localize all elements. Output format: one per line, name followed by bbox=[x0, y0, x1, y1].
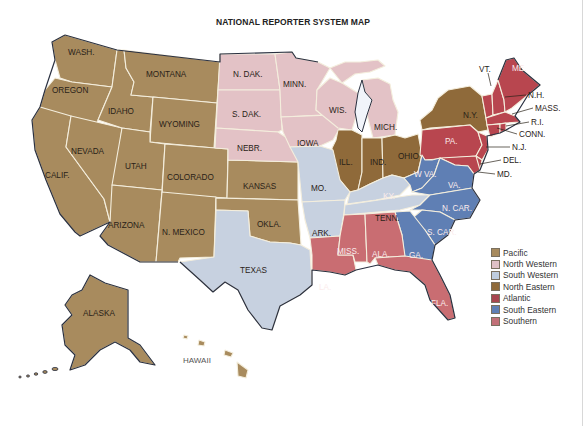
label-ohio: OHIO bbox=[398, 152, 419, 161]
label-va: VA. bbox=[448, 181, 461, 190]
label-vt: VT. bbox=[479, 65, 491, 74]
label-ri: R.I. bbox=[531, 118, 544, 127]
label-hawaii: HAWAII bbox=[183, 356, 211, 365]
aleutian-islands bbox=[19, 367, 58, 378]
label-ill: ILL. bbox=[339, 158, 353, 167]
label-utah: UTAH bbox=[125, 162, 147, 171]
legend-swatch-icon bbox=[491, 294, 500, 303]
legend-item-south-eastern: South Eastern bbox=[491, 304, 558, 315]
label-me: ME. bbox=[512, 64, 527, 73]
label-arizona: ARIZONA bbox=[108, 221, 145, 230]
label-la: LA. bbox=[319, 283, 331, 292]
label-texas: TEXAS bbox=[240, 266, 267, 275]
label-s-dak: S. DAK. bbox=[232, 110, 261, 119]
label-montana: MONTANA bbox=[146, 70, 187, 79]
label-tenn: TENN. bbox=[375, 214, 400, 223]
legend-item-pacific: Pacific bbox=[491, 247, 558, 258]
label-minn: MINN. bbox=[283, 80, 306, 89]
label-md: MD. bbox=[497, 170, 512, 179]
label-nevada: NEVADA bbox=[71, 147, 105, 156]
hawaii-oahu bbox=[198, 340, 205, 346]
label-nj: N.J. bbox=[512, 143, 527, 152]
legend-swatch-icon bbox=[491, 248, 500, 257]
label-okla: OKLA. bbox=[257, 220, 281, 229]
label-kansas: KANSAS bbox=[243, 182, 277, 191]
legend-item-north-western: North Western bbox=[491, 258, 558, 269]
legend-swatch-icon bbox=[491, 260, 500, 269]
legend-item-atlantic: Atlantic bbox=[491, 293, 558, 304]
label-ala: ALA. bbox=[372, 250, 390, 259]
legend-item-south-western: South Western bbox=[491, 270, 558, 281]
state-new-york bbox=[420, 86, 488, 132]
label-nh: N.H. bbox=[528, 91, 544, 100]
label-ky: KY. bbox=[383, 192, 395, 201]
legend-swatch-icon bbox=[491, 271, 500, 280]
us-map: WASH. OREGON CALIF. NEVADA IDAHO MONTANA… bbox=[0, 0, 586, 426]
label-pa: PA. bbox=[445, 137, 458, 146]
label-mo: MO. bbox=[311, 184, 326, 193]
label-idaho: IDAHO bbox=[108, 107, 134, 116]
hawaii-big-island bbox=[237, 362, 248, 378]
state-alaska bbox=[62, 275, 155, 370]
state-kansas bbox=[227, 160, 298, 200]
label-alaska: ALASKA bbox=[83, 309, 115, 318]
hawaii-maui bbox=[224, 350, 233, 357]
label-nebr: NEBR. bbox=[237, 144, 262, 153]
label-colorado: COLORADO bbox=[167, 173, 214, 182]
state-colorado bbox=[162, 144, 228, 198]
label-oregon: OREGON bbox=[52, 86, 88, 95]
legend: Pacific North Western South Western Nort… bbox=[491, 247, 558, 327]
label-n-dak: N. DAK. bbox=[233, 70, 263, 79]
legend-swatch-icon bbox=[491, 317, 500, 326]
state-new-mexico bbox=[156, 192, 216, 262]
label-wyoming: WYOMING bbox=[159, 120, 200, 129]
label-s-car: S. CAR. bbox=[427, 228, 457, 237]
label-ark: ARK. bbox=[312, 229, 331, 238]
label-mich: MICH. bbox=[374, 123, 397, 132]
label-ind: IND. bbox=[370, 158, 386, 167]
legend-item-north-eastern: North Eastern bbox=[491, 281, 558, 292]
hawaii-kauai bbox=[183, 335, 188, 339]
label-miss: MISS. bbox=[337, 247, 359, 256]
state-florida bbox=[375, 256, 455, 320]
label-conn: CONN. bbox=[519, 130, 545, 139]
label-calif: CALIF. bbox=[45, 171, 70, 180]
label-n-car: N. CAR. bbox=[442, 204, 472, 213]
label-mass: MASS. bbox=[535, 104, 560, 113]
legend-item-southern: Southern bbox=[491, 315, 558, 326]
label-wis: WIS. bbox=[329, 106, 347, 115]
label-wash: WASH. bbox=[68, 48, 95, 57]
label-w-va: W VA. bbox=[414, 170, 437, 179]
legend-swatch-icon bbox=[491, 282, 500, 291]
label-n-mexico: N. MEXICO bbox=[162, 228, 205, 237]
label-ga: GA. bbox=[409, 251, 423, 260]
legend-swatch-icon bbox=[491, 305, 500, 314]
label-ny: N.Y. bbox=[463, 111, 478, 120]
label-fla: FLA. bbox=[431, 299, 448, 308]
label-del: DEL. bbox=[503, 156, 521, 165]
label-iowa: IOWA bbox=[297, 139, 319, 148]
